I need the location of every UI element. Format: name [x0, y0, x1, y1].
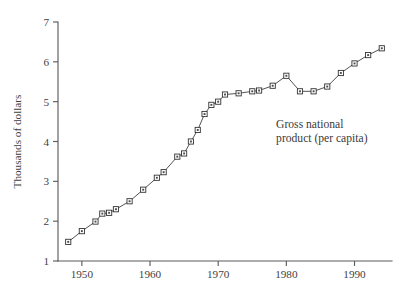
- x-tick-label: 1970: [207, 268, 230, 280]
- data-point-center: [204, 113, 206, 115]
- data-point-center: [251, 90, 253, 92]
- annotation-group: Gross nationalproduct (per capita): [276, 118, 368, 146]
- data-point-center: [129, 200, 131, 202]
- x-tick-label: 1960: [139, 268, 162, 280]
- y-tick-label: 7: [43, 16, 49, 28]
- data-point-center: [197, 129, 199, 131]
- data-point-center: [142, 189, 144, 191]
- data-point-center: [217, 101, 219, 103]
- gnp-line-chart: 1234567 19501960197019801990 Gross natio…: [0, 0, 412, 302]
- data-point-center: [326, 86, 328, 88]
- data-point-center: [258, 90, 260, 92]
- data-point-center: [67, 241, 69, 243]
- data-point-center: [354, 62, 356, 64]
- data-point-center: [115, 208, 117, 210]
- data-point-center: [238, 92, 240, 94]
- x-axis: 19501960197019801990: [58, 261, 392, 280]
- y-tick-label: 5: [43, 96, 49, 108]
- annotation-line: Gross national: [276, 118, 343, 131]
- data-point-center: [210, 104, 212, 106]
- y-tick-label: 4: [43, 136, 49, 148]
- y-tick-label: 3: [43, 175, 49, 187]
- y-axis-title: Thousands of dollars: [11, 95, 23, 189]
- data-point-center: [101, 213, 103, 215]
- x-tick-label: 1990: [343, 268, 366, 280]
- data-point-center: [313, 90, 315, 92]
- data-point-center: [183, 153, 185, 155]
- data-point-center: [285, 75, 287, 77]
- y-axis: 1234567: [43, 16, 58, 267]
- y-tick-label: 2: [43, 215, 49, 227]
- y-tick-label: 1: [43, 255, 49, 267]
- y-axis-title-group: Thousands of dollars: [11, 95, 23, 189]
- data-point-center: [95, 221, 97, 223]
- data-point-center: [299, 90, 301, 92]
- data-point-center: [367, 54, 369, 56]
- data-point-center: [108, 212, 110, 214]
- chart-canvas: 1234567 19501960197019801990 Gross natio…: [0, 0, 412, 302]
- data-point-center: [224, 94, 226, 96]
- y-tick-label: 6: [43, 56, 49, 68]
- data-point-center: [381, 47, 383, 49]
- annotation-line: product (per capita): [276, 132, 368, 145]
- x-tick-label: 1980: [275, 268, 298, 280]
- data-point-center: [156, 177, 158, 179]
- data-point-center: [272, 85, 274, 87]
- data-point-center: [340, 72, 342, 74]
- x-tick-label: 1950: [71, 268, 94, 280]
- data-point-center: [81, 230, 83, 232]
- data-point-center: [190, 141, 192, 143]
- data-point-center: [163, 171, 165, 173]
- data-point-center: [176, 156, 178, 158]
